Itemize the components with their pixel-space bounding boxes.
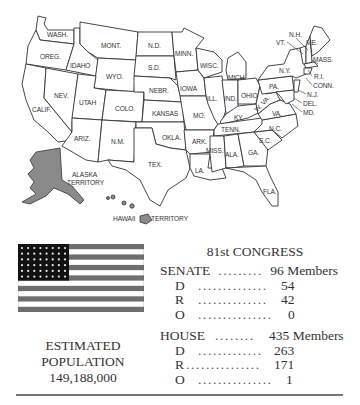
state-miss (210, 136, 226, 172)
bottom-rule (16, 394, 343, 396)
label-okla: OKLA. (162, 134, 181, 141)
label-oreg: OREG. (40, 53, 61, 60)
label-nebr: NEBR. (149, 87, 169, 94)
house-total: 435 Members (269, 329, 344, 344)
leader-dots: .............. (198, 293, 281, 308)
label-ohio: OHIO (241, 92, 257, 99)
congress-block: 81st CONGRESS SENATE ......... 96 Member… (160, 244, 360, 387)
label-ri: R.I. (314, 73, 324, 80)
house-label: HOUSE (160, 329, 205, 344)
senate-label: SENATE (160, 264, 210, 279)
leader-dots: ........ (215, 329, 269, 344)
us-flag-48-stars (18, 244, 144, 312)
label-fla: FLA. (263, 188, 277, 195)
label-ky: KY. (234, 114, 244, 121)
population-label-line2: POPULATION (8, 354, 158, 370)
senate-o-label: O (160, 308, 198, 323)
house-r-label: R (160, 358, 186, 373)
population-value: 149,188,000 (8, 370, 158, 386)
house-o-row: O ............... 1 (160, 373, 360, 388)
house-o-value: 1 (286, 373, 293, 388)
label-nev: NEV. (54, 92, 69, 99)
label-wisc: WISC. (200, 62, 219, 69)
label-nm: N.M. (111, 138, 125, 145)
leader-dots: ......... (218, 264, 270, 279)
state-ny (258, 48, 306, 80)
label-hawaii-territory: TERRITORY (151, 215, 189, 222)
label-nd: N.D. (148, 42, 161, 49)
leader-dots: ............. (198, 344, 274, 359)
label-nh: N.H. (289, 31, 302, 38)
house-d-label: D (160, 344, 198, 359)
house-o-label: O (160, 373, 198, 388)
label-alaska: ALASKA (72, 171, 98, 178)
congress-title: 81st CONGRESS (160, 244, 350, 260)
house-r-value: 171 (274, 358, 294, 373)
label-sd: S.D. (148, 64, 161, 71)
house-r-row: R ............... 171 (160, 358, 360, 373)
senate-r-value: 42 (281, 293, 295, 308)
senate-d-label: D (160, 279, 198, 294)
senate-total: 96 Members (270, 264, 338, 279)
label-hawaii: HAWAII (113, 215, 136, 222)
leader-dots: .............. (198, 279, 281, 294)
label-me: ME. (306, 39, 318, 46)
label-mont: MONT. (101, 42, 121, 49)
label-tenn: TENN. (221, 126, 241, 133)
label-pa: PA. (269, 83, 279, 90)
label-utah: UTAH (79, 99, 96, 106)
label-alaska-territory: TERRITORY (67, 179, 105, 186)
senate-d-value: 54 (281, 279, 295, 294)
house-d-value: 263 (274, 344, 294, 359)
label-sc: S.C. (259, 137, 272, 144)
senate-total-row: SENATE ......... 96 Members (160, 264, 360, 279)
label-vt: VT. (276, 39, 285, 46)
label-colo: COLO. (115, 105, 135, 112)
senate-r-label: R (160, 293, 198, 308)
leader-dots: ............... (186, 358, 274, 373)
label-ark: ARK. (192, 138, 207, 145)
label-minn: MINN. (175, 50, 193, 57)
label-ariz: ARIZ. (74, 135, 91, 142)
senate-o-row: O ............... 0 (160, 308, 360, 323)
leader-dots: ............... (198, 373, 286, 388)
label-tex: TEX. (148, 161, 163, 168)
label-miss: MISS. (206, 147, 224, 154)
label-mich: MICH. (228, 74, 246, 81)
senate-o-value: 0 (288, 308, 295, 323)
label-nj: N.J. (307, 91, 319, 98)
senate-r-row: R .............. 42 (160, 293, 360, 308)
population-label-line1: ESTIMATED (8, 338, 158, 354)
label-nc: N.C. (269, 125, 282, 132)
label-la: LA. (195, 167, 205, 174)
house-d-row: D ............. 263 (160, 344, 360, 359)
label-ill: ILL. (207, 95, 218, 102)
house-total-row: HOUSE ........ 435 Members (160, 329, 360, 344)
label-ala: ALA. (225, 151, 239, 158)
label-mass: MASS. (313, 56, 333, 63)
label-conn: CONN. (313, 82, 334, 89)
label-calif: CALIF. (32, 106, 51, 113)
label-kansas: KANSAS (152, 110, 179, 117)
label-idaho: IDAHO (70, 62, 90, 69)
label-wash: WASH. (47, 31, 68, 38)
state-nj (294, 80, 300, 92)
label-wyo: WYO. (106, 73, 123, 80)
population-block: ESTIMATED POPULATION 149,188,000 (8, 338, 158, 386)
state-conn (304, 68, 312, 74)
label-va: VA. (272, 110, 282, 117)
leader-dots: ............... (198, 308, 288, 323)
label-mo: MO. (193, 112, 205, 119)
label-del: DEL. (303, 100, 318, 107)
label-ind: IND. (224, 95, 237, 102)
label-md: MD. (303, 109, 315, 116)
senate-d-row: D .............. 54 (160, 279, 360, 294)
state-fla (226, 166, 278, 206)
label-ga: GA. (248, 149, 259, 156)
us-map: WASH. OREG. CALIF. IDAHO NEV. MONT. WYO.… (0, 0, 360, 232)
label-ny: N.Y. (279, 67, 291, 74)
label-iowa: IOWA (180, 85, 198, 92)
